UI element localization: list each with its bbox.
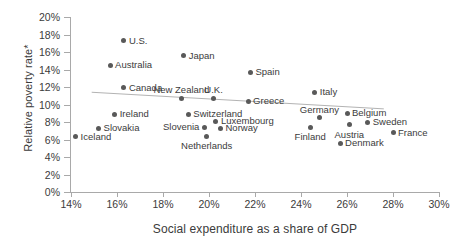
data-point[interactable] [96, 126, 101, 131]
x-tick-mark [209, 192, 210, 197]
x-tick-mark [163, 192, 164, 197]
data-point[interactable] [246, 99, 251, 104]
data-point-label: Netherlands [181, 141, 232, 151]
x-tick-label: 24% [281, 199, 321, 210]
x-tick-label: 20% [189, 199, 229, 210]
y-tick-label: 0% [0, 187, 60, 198]
y-tick-label: 4% [0, 152, 60, 163]
data-point-label: Ireland [120, 109, 149, 119]
y-tick-label: 14% [0, 65, 60, 76]
data-point[interactable] [73, 134, 78, 139]
data-point[interactable] [179, 96, 184, 101]
data-point-label: Iceland [81, 132, 112, 142]
data-point[interactable] [202, 125, 207, 130]
data-point[interactable] [121, 38, 126, 43]
y-tick-label: 2% [0, 170, 60, 181]
y-tick-mark [64, 87, 70, 88]
data-point-label: Norway [226, 123, 258, 133]
y-tick-mark [64, 17, 70, 18]
data-point[interactable] [308, 125, 313, 130]
data-point[interactable] [181, 53, 186, 58]
y-tick-mark [64, 52, 70, 53]
x-tick-label: 30% [419, 199, 453, 210]
y-tick-mark [64, 122, 70, 123]
x-tick-label: 16% [97, 199, 137, 210]
x-tick-label: 18% [143, 199, 183, 210]
data-point-label: U.K. [204, 85, 222, 95]
data-point[interactable] [213, 119, 218, 124]
y-tick-mark [64, 70, 70, 71]
data-point[interactable] [211, 96, 216, 101]
data-point[interactable] [312, 90, 317, 95]
y-tick-label: 16% [0, 47, 60, 58]
scatter-chart: Relative poverty rate* Social expenditur… [0, 0, 453, 249]
data-point[interactable] [365, 120, 370, 125]
data-point[interactable] [186, 112, 191, 117]
y-tick-mark [64, 157, 70, 158]
data-point-label: Italy [320, 87, 337, 97]
data-point[interactable] [108, 63, 113, 68]
data-point[interactable] [317, 115, 322, 120]
data-point[interactable] [347, 122, 352, 127]
data-point[interactable] [218, 126, 223, 131]
x-tick-label: 22% [235, 199, 275, 210]
data-point[interactable] [248, 70, 253, 75]
x-tick-mark [301, 192, 302, 197]
data-point-label: Spain [255, 67, 279, 77]
data-point-label: New Zealand [153, 85, 209, 95]
data-point[interactable] [112, 112, 117, 117]
x-tick-mark [255, 192, 256, 197]
y-tick-mark [64, 192, 70, 193]
x-tick-label: 26% [327, 199, 367, 210]
data-point-label: Slovenia [163, 122, 199, 132]
y-axis-line [70, 17, 71, 193]
x-tick-mark [347, 192, 348, 197]
data-point-label: Sweden [373, 117, 407, 127]
y-tick-label: 10% [0, 100, 60, 111]
data-point-label: Greece [253, 96, 284, 106]
data-point[interactable] [345, 111, 350, 116]
x-tick-mark [71, 192, 72, 197]
data-point-label: Japan [189, 51, 215, 61]
data-point-label: U.S. [129, 36, 147, 46]
y-tick-label: 20% [0, 12, 60, 23]
y-tick-label: 6% [0, 135, 60, 146]
x-axis-title: Social expenditure as a share of GDP [71, 222, 439, 236]
y-tick-label: 18% [0, 30, 60, 41]
data-point[interactable] [338, 141, 343, 146]
y-tick-mark [64, 105, 70, 106]
data-point[interactable] [204, 134, 209, 139]
y-tick-label: 8% [0, 117, 60, 128]
data-point[interactable] [121, 85, 126, 90]
y-tick-mark [64, 35, 70, 36]
data-point[interactable] [391, 130, 396, 135]
y-tick-label: 12% [0, 82, 60, 93]
x-tick-mark [439, 192, 440, 197]
data-point-label: Germany [300, 105, 339, 115]
x-tick-label: 28% [373, 199, 413, 210]
x-tick-mark [393, 192, 394, 197]
y-tick-mark [64, 175, 70, 176]
data-point-label: Finland [295, 132, 326, 142]
data-point-label: Australia [115, 60, 152, 70]
data-point-label: Denmark [345, 138, 384, 148]
data-point-label: France [398, 128, 428, 138]
x-tick-mark [117, 192, 118, 197]
x-tick-label: 14% [51, 199, 91, 210]
y-tick-mark [64, 140, 70, 141]
